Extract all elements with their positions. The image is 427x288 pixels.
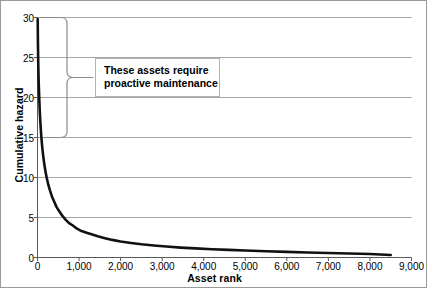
cumulative-hazard-chart: 051015202530 01,0002,0003,0004,0005,0006… bbox=[0, 0, 427, 288]
annotation-callout-box: These assets require proactive maintenan… bbox=[95, 58, 220, 97]
x-tick-marks bbox=[38, 258, 412, 262]
plot-area bbox=[1, 1, 427, 288]
annotation-brace bbox=[40, 18, 93, 138]
gridlines bbox=[38, 18, 412, 218]
annotation-line-2: proactive maintenance bbox=[104, 77, 212, 90]
annotation-line-1: These assets require bbox=[104, 64, 212, 77]
